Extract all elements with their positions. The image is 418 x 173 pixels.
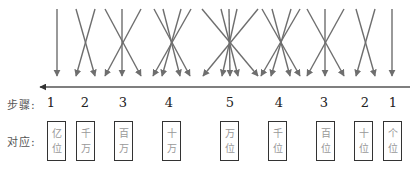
arrow-group-5 bbox=[202, 9, 258, 76]
place-char-top: 百 bbox=[321, 126, 331, 141]
place-char-top: 百 bbox=[119, 126, 129, 141]
place-char-top: 个 bbox=[388, 126, 398, 141]
arrow-groups bbox=[57, 9, 392, 76]
place-char-bottom: 位 bbox=[321, 141, 331, 156]
corresponds-label: 对应: bbox=[7, 133, 36, 149]
place-char-bottom: 位 bbox=[225, 141, 235, 156]
place-value-box: 百位 bbox=[316, 121, 335, 161]
place-value-box: 十万 bbox=[162, 121, 181, 161]
step-number: 2 bbox=[361, 95, 369, 110]
place-char-top: 十 bbox=[359, 126, 369, 141]
place-char-top: 千 bbox=[81, 126, 91, 141]
arrow-group-6 bbox=[261, 9, 300, 76]
place-char-bottom: 位 bbox=[388, 141, 398, 156]
step-number: 4 bbox=[275, 95, 283, 110]
place-value-box: 亿位 bbox=[47, 121, 66, 161]
digit-reversal-arrows bbox=[0, 0, 418, 95]
place-value-box: 百万 bbox=[114, 121, 133, 161]
place-char-top: 万 bbox=[225, 126, 235, 141]
place-char-bottom: 万 bbox=[119, 141, 129, 156]
place-char-bottom: 万 bbox=[167, 141, 177, 156]
place-char-bottom: 位 bbox=[273, 141, 283, 156]
place-value-box: 十位 bbox=[354, 121, 373, 161]
step-number: 3 bbox=[320, 95, 328, 110]
steps-label: 步骤: bbox=[7, 96, 36, 112]
place-char-bottom: 万 bbox=[81, 141, 91, 156]
arrow-group-8 bbox=[356, 9, 375, 76]
place-value-box: 万位 bbox=[220, 121, 239, 161]
arrow-group-4 bbox=[153, 9, 191, 76]
place-char-top: 千 bbox=[273, 126, 283, 141]
place-char-top: 十 bbox=[167, 126, 177, 141]
step-number: 1 bbox=[389, 95, 397, 110]
arrow-group-2 bbox=[76, 9, 95, 76]
arrow-group-3 bbox=[105, 9, 141, 76]
place-value-box: 千万 bbox=[76, 121, 95, 161]
place-char-top: 亿 bbox=[52, 126, 62, 141]
arrow-group-7 bbox=[307, 9, 344, 76]
step-number: 3 bbox=[119, 95, 127, 110]
step-number: 2 bbox=[81, 95, 89, 110]
step-number: 5 bbox=[226, 95, 234, 110]
place-char-bottom: 位 bbox=[52, 141, 62, 156]
step-number: 1 bbox=[47, 95, 55, 110]
step-number: 4 bbox=[165, 95, 173, 110]
place-char-bottom: 位 bbox=[359, 141, 369, 156]
place-value-box: 个位 bbox=[383, 121, 402, 161]
place-value-box: 千位 bbox=[268, 121, 287, 161]
